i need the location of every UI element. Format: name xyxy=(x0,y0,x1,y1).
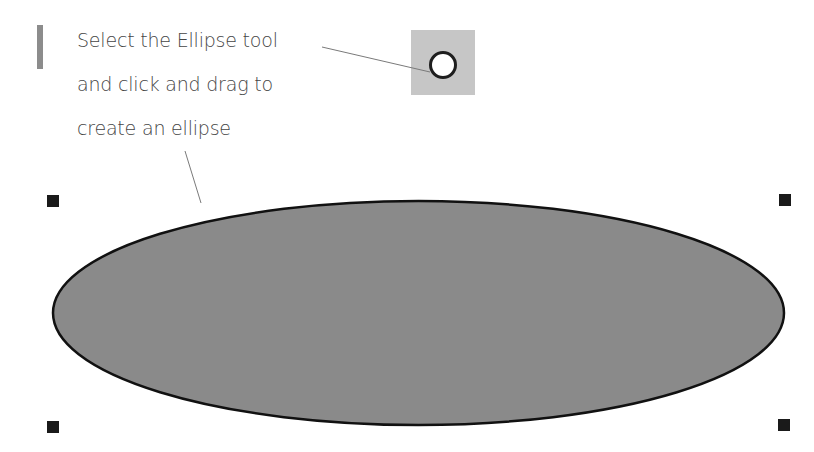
leader-line-to-tool xyxy=(322,47,430,72)
selection-handle-bottom-right[interactable] xyxy=(778,419,790,431)
drawn-ellipse[interactable] xyxy=(53,201,784,425)
selection-handle-top-left[interactable] xyxy=(47,195,59,207)
drawing-canvas[interactable] xyxy=(0,0,814,452)
leader-line-to-ellipse xyxy=(185,151,201,203)
selection-handle-top-right[interactable] xyxy=(779,194,791,206)
selection-handle-bottom-left[interactable] xyxy=(47,421,59,433)
